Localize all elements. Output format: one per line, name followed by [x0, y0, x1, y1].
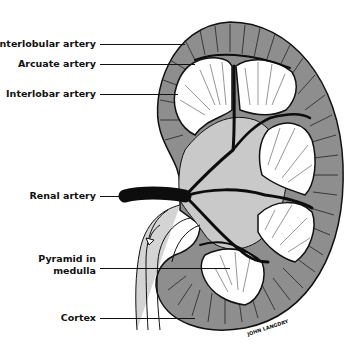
leader-line-pyramid [100, 268, 230, 269]
leader-line-renal [100, 196, 122, 197]
leader-line-arcuate [100, 64, 195, 65]
leader-line-interlobar [100, 94, 178, 95]
label-arcuate-artery: Arcuate artery [18, 58, 96, 69]
label-renal-artery: Renal artery [30, 190, 96, 201]
label-pyramid-line2: medulla [53, 265, 96, 276]
renal-artery [125, 193, 185, 196]
kidney-diagram: JOHN LANGDRY [0, 0, 351, 356]
label-pyramid-line1: Pyramid in [38, 253, 96, 264]
leader-line-interlobular [100, 44, 185, 45]
label-cortex: Cortex [61, 312, 96, 323]
leader-line-cortex [100, 318, 195, 319]
label-interlobular-artery: Interlobular artery [0, 38, 96, 49]
label-interlobar-artery: Interlobar artery [6, 88, 96, 99]
